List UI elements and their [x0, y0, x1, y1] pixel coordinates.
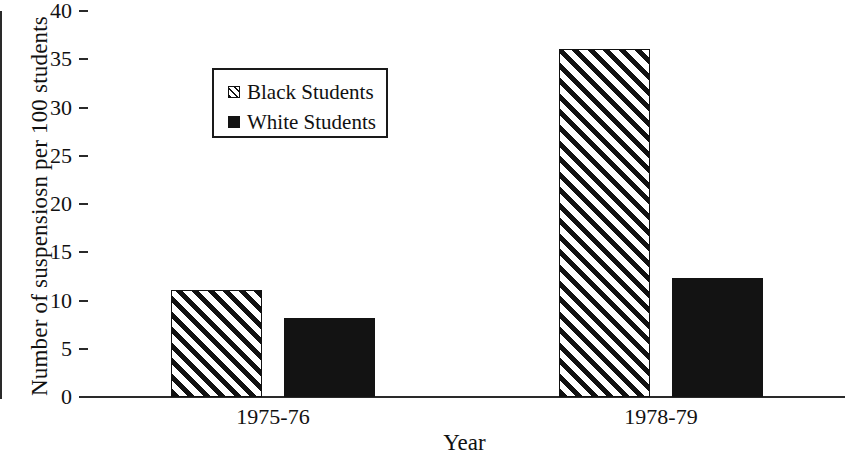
y-axis-tick	[79, 300, 88, 302]
legend-label: White Students	[247, 112, 376, 133]
legend-item-white-students: White Students	[228, 109, 386, 135]
y-axis-tick	[79, 10, 88, 12]
bar	[171, 290, 262, 397]
bar	[284, 318, 375, 397]
y-axis-tick	[79, 107, 88, 109]
y-axis-line	[0, 11, 2, 399]
filled-square-icon	[228, 116, 240, 128]
x-axis-title: Year	[443, 430, 485, 456]
y-axis-tick	[79, 348, 88, 350]
bar	[559, 49, 650, 397]
x-axis-category-label: 1975-76	[183, 404, 363, 430]
y-axis-tick	[79, 203, 88, 205]
bar	[672, 278, 763, 397]
x-axis-category-label: 1978-79	[571, 404, 751, 430]
y-axis-tick-label: 25	[12, 145, 72, 167]
y-axis-tick-label: 35	[12, 48, 72, 70]
y-axis-tick-label: 40	[12, 0, 72, 22]
y-axis-tick	[79, 58, 88, 60]
legend-item-black-students: Black Students	[228, 79, 386, 105]
y-axis-tick-label: 10	[12, 290, 72, 312]
chart-legend: Black Students White Students	[212, 68, 388, 138]
y-axis-tick-label: 5	[12, 338, 72, 360]
y-axis-tick	[79, 251, 88, 253]
bar-chart: Number of suspensiosn per 100 students 0…	[0, 0, 853, 464]
y-axis-tick-label: 30	[12, 97, 72, 119]
y-axis-tick-label: 0	[12, 386, 72, 408]
y-axis-tick-label: 20	[12, 193, 72, 215]
y-axis-tick	[79, 396, 88, 398]
x-axis-title-row: Year	[0, 430, 853, 456]
y-axis-tick	[79, 155, 88, 157]
hatched-square-icon	[228, 86, 240, 98]
legend-label: Black Students	[247, 82, 374, 103]
y-axis-tick-label: 15	[12, 241, 72, 263]
